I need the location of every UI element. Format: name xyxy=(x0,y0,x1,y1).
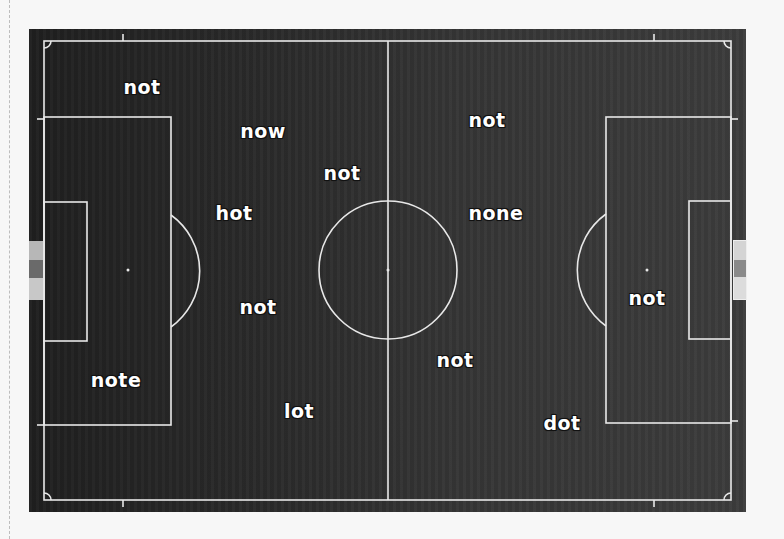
right-goal xyxy=(733,240,747,300)
right-penalty-area xyxy=(606,117,731,423)
word-label: not xyxy=(436,349,473,371)
corner-arc-bottom-left xyxy=(44,493,51,500)
word-label: now xyxy=(240,120,286,142)
word-label: not xyxy=(123,76,160,98)
right-penalty-arc xyxy=(577,214,606,326)
left-penalty-spot xyxy=(127,269,130,272)
soccer-pitch xyxy=(29,29,746,512)
word-label: note xyxy=(91,369,142,391)
left-goal-area xyxy=(44,202,87,341)
left-penalty-arc xyxy=(171,215,200,327)
center-spot xyxy=(387,269,390,272)
word-label: dot xyxy=(543,412,580,434)
word-label: not xyxy=(239,296,276,318)
right-goal-area xyxy=(689,201,731,339)
corner-arc-bottom-right xyxy=(724,493,731,500)
corner-arc-top-left xyxy=(44,41,51,48)
word-label: lot xyxy=(284,400,314,422)
dashed-guide-line xyxy=(9,0,10,539)
pitch-markings xyxy=(29,29,746,512)
left-goal xyxy=(29,241,44,300)
right-penalty-spot xyxy=(646,269,649,272)
word-label: not xyxy=(468,109,505,131)
corner-arc-top-right xyxy=(724,41,731,48)
word-label: not xyxy=(628,287,665,309)
word-label: hot xyxy=(215,202,252,224)
word-label: not xyxy=(323,162,360,184)
word-label: none xyxy=(469,202,524,224)
